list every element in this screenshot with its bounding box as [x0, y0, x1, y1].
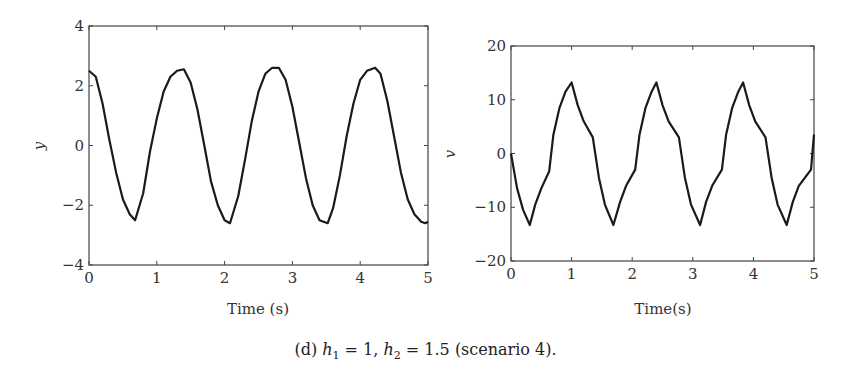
y-tick-label: 0 [74, 137, 84, 155]
y-axis-label: v [441, 149, 459, 158]
x-tick-label: 1 [567, 265, 577, 283]
series-line-v [511, 83, 814, 226]
y-tick-labels: −20−1001020 [474, 37, 506, 270]
y-tick-label: −20 [474, 252, 506, 270]
chart-y-vs-time: −4−2024 012345 y Time (s) [30, 17, 433, 318]
y-tick-label: −2 [62, 196, 84, 214]
x-tick-labels: 012345 [84, 269, 433, 287]
y-tick-label: −10 [474, 198, 506, 216]
y-tick-label: 2 [74, 77, 84, 95]
x-tick-label: 4 [749, 265, 759, 283]
caption-h2-rest: = 1.5 (scenario 4). [401, 340, 557, 359]
axis-ticks [89, 26, 428, 265]
plot-frame [89, 26, 428, 265]
x-tick-labels: 012345 [506, 265, 819, 283]
x-tick-label: 0 [506, 265, 516, 283]
x-tick-label: 2 [220, 269, 230, 287]
figure-canvas: −4−2024 012345 y Time (s) −20−1001020 01… [0, 0, 851, 340]
caption-prefix: (d) [294, 340, 322, 359]
y-tick-labels: −4−2024 [62, 17, 84, 274]
x-axis-label: Time(s) [634, 300, 691, 318]
y-axis-label: y [30, 141, 48, 151]
x-tick-label: 1 [152, 269, 162, 287]
chart-v-vs-time: −20−1001020 012345 v Time(s) [441, 37, 819, 318]
y-tick-label: 4 [74, 17, 84, 35]
x-tick-label: 3 [288, 269, 298, 287]
figure-caption: (d) h1 = 1, h2 = 1.5 (scenario 4). [0, 340, 851, 362]
x-axis-label: Time (s) [227, 300, 289, 318]
y-tick-label: 20 [487, 37, 506, 55]
caption-h1-rest: = 1, [340, 340, 384, 359]
series-line-y [89, 68, 428, 223]
caption-h1-sub: 1 [333, 349, 340, 362]
y-tick-label: −4 [62, 256, 84, 274]
x-tick-label: 3 [688, 265, 698, 283]
x-tick-label: 2 [627, 265, 637, 283]
x-tick-label: 0 [84, 269, 94, 287]
y-tick-label: 0 [496, 145, 506, 163]
y-tick-label: 10 [487, 91, 506, 109]
x-tick-label: 4 [355, 269, 365, 287]
x-tick-label: 5 [423, 269, 433, 287]
caption-h1-var: h [322, 340, 332, 359]
caption-h2-var: h [383, 340, 393, 359]
caption-h2-sub: 2 [394, 349, 401, 362]
x-tick-label: 5 [809, 265, 819, 283]
